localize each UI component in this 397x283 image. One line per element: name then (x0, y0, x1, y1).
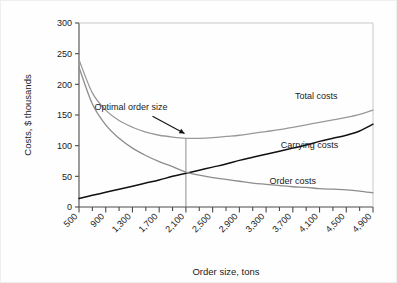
x-tick-label: 4,100 (297, 211, 320, 234)
series-label-total-costs: Total costs (295, 91, 338, 101)
y-tick-label: 50 (62, 172, 72, 182)
x-tick-label: 900 (88, 211, 106, 229)
y-tick-label: 300 (57, 18, 72, 28)
x-tick-label: 500 (62, 211, 80, 229)
x-tick-label: 1,300 (110, 211, 133, 234)
cost-chart: 0501001502002503005009001,3001,7002,1002… (1, 1, 397, 283)
x-tick-label: 3,300 (244, 211, 267, 234)
x-tick-label: 2,900 (217, 211, 240, 234)
y-tick-label: 100 (57, 141, 72, 151)
x-tick-label: 2,500 (190, 211, 213, 234)
annotation-arrow-shaft (153, 116, 185, 133)
y-tick-label: 0 (67, 202, 72, 212)
y-tick-label: 150 (57, 110, 72, 120)
series-label-order-costs: Order costs (270, 176, 317, 186)
y-tick-label: 200 (57, 80, 72, 90)
annotation-label: Optimal order size (95, 102, 168, 112)
x-tick-label: 1,700 (137, 211, 160, 234)
x-tick-label: 2,100 (163, 211, 186, 234)
series-line-carrying-costs (79, 124, 373, 198)
x-tick-label: 4,500 (324, 211, 347, 234)
chart-figure: 0501001502002503005009001,3001,7002,1002… (0, 0, 397, 283)
x-tick-label: 4,900 (350, 211, 373, 234)
series-label-carrying-costs: Carrying costs (281, 140, 339, 150)
x-tick-label: 3,700 (270, 211, 293, 234)
x-axis-title: Order size, tons (192, 266, 259, 277)
y-axis-title: Costs, $ thousands (22, 74, 33, 156)
series-line-order-costs (79, 67, 373, 193)
y-tick-label: 250 (57, 49, 72, 59)
